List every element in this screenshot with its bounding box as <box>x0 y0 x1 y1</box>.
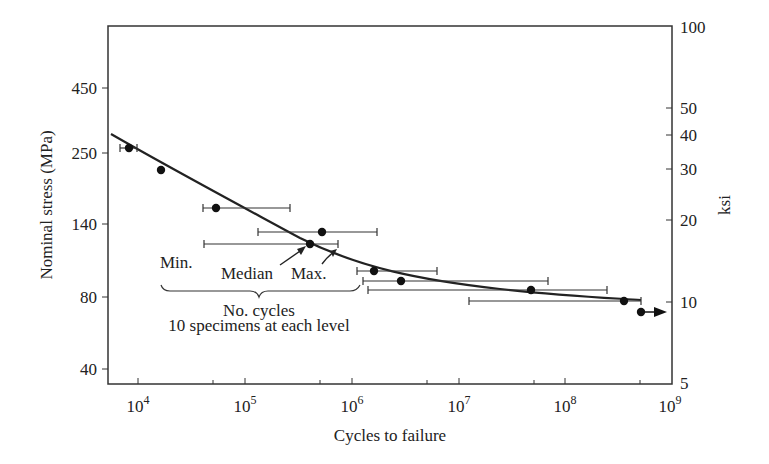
left-tick-label: 40 <box>80 360 97 379</box>
left-y-axis: 450 250 140 80 40 <box>72 79 109 379</box>
data-point <box>125 144 133 152</box>
data-point <box>527 286 535 294</box>
error-bars <box>120 144 641 305</box>
data-point <box>212 204 220 212</box>
annotation-arrows <box>280 249 334 265</box>
x-tick-label: 107 <box>448 393 471 416</box>
data-point <box>620 297 628 305</box>
x-tick-label: 108 <box>554 393 577 416</box>
right-tick-label: 5 <box>680 374 689 393</box>
median-arrow-icon <box>297 246 306 255</box>
x-tick-label: 109 <box>659 393 682 416</box>
x-tick-label: 105 <box>234 393 257 416</box>
right-tick-label: 20 <box>680 211 697 230</box>
right-tick-label: 50 <box>680 99 697 118</box>
left-tick-label: 450 <box>72 79 98 98</box>
brace-label-specimens: 10 specimens at each level <box>168 316 350 335</box>
max-label: Max. <box>291 264 326 283</box>
runout-arrow-icon <box>641 307 667 317</box>
right-tick-label: 100 <box>680 18 706 37</box>
left-tick-label: 250 <box>72 144 98 163</box>
median-label: Median <box>221 264 273 283</box>
sn-fit-curve <box>111 134 641 300</box>
right-y-axis-title: ksi <box>715 195 734 215</box>
x-tick-label: 104 <box>127 393 150 416</box>
data-point <box>370 267 378 275</box>
left-tick-label: 140 <box>72 215 98 234</box>
range-brace <box>161 285 360 297</box>
data-point <box>157 166 165 174</box>
x-tick-label: 106 <box>341 393 364 416</box>
data-point <box>318 228 326 236</box>
data-point-median <box>306 240 314 248</box>
sn-fatigue-chart: 450 250 140 80 40 Nominal stress (MPa) 1… <box>0 0 769 464</box>
y-axis-title: Nominal stress (MPa) <box>37 130 56 279</box>
data-point <box>397 277 405 285</box>
min-label: Min. <box>160 253 193 272</box>
right-tick-label: 30 <box>680 160 697 179</box>
left-tick-label: 80 <box>80 288 97 307</box>
right-tick-label: 40 <box>680 126 697 145</box>
right-tick-label: 10 <box>680 293 697 312</box>
x-axis-title: Cycles to failure <box>334 426 446 445</box>
